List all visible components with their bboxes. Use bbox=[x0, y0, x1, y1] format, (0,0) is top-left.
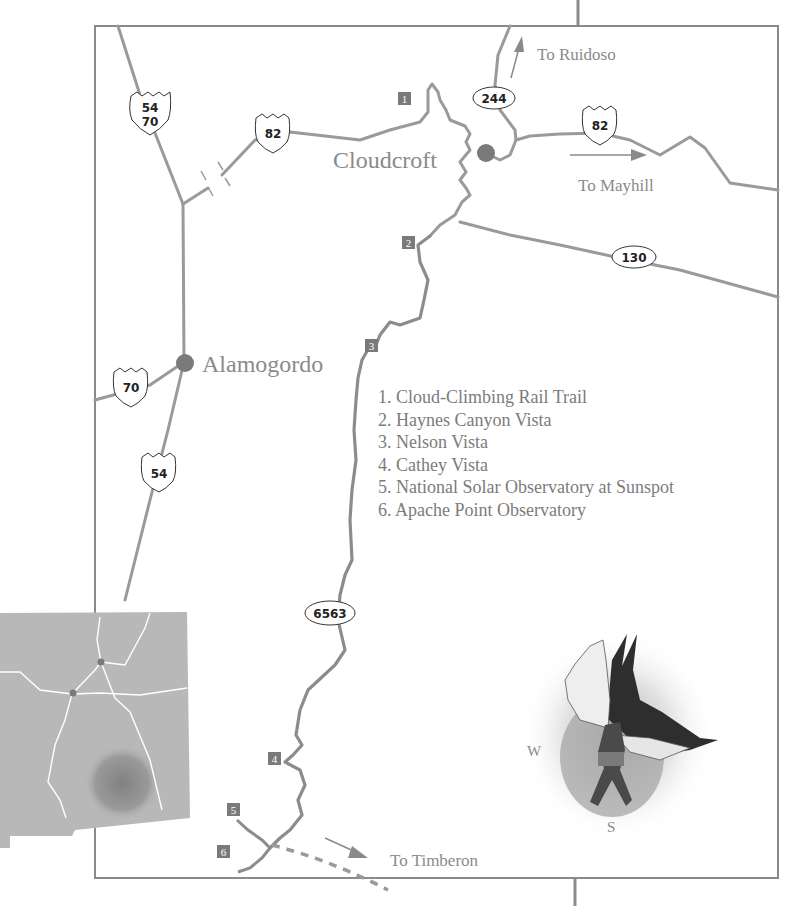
legend-item-4: 4. Cathey Vista bbox=[378, 454, 674, 477]
svg-text:244: 244 bbox=[481, 92, 506, 106]
svg-text:5: 5 bbox=[231, 804, 237, 816]
inset-city-dot-b bbox=[70, 690, 77, 697]
svg-text:82: 82 bbox=[265, 127, 282, 141]
svg-text:130: 130 bbox=[621, 251, 646, 265]
inset-map-new-mexico bbox=[0, 612, 190, 848]
marker-3[interactable]: 3 bbox=[365, 339, 378, 352]
marker-2[interactable]: 2 bbox=[402, 236, 415, 249]
svg-text:54: 54 bbox=[151, 467, 168, 481]
legend-item-1: 1. Cloud-Climbing Rail Trail bbox=[378, 386, 674, 409]
legend-item-3: 3. Nelson Vista bbox=[378, 431, 674, 454]
svg-text:4: 4 bbox=[272, 753, 278, 765]
legend-item-2: 2. Haynes Canyon Vista bbox=[378, 409, 674, 432]
points-of-interest-legend: 1. Cloud-Climbing Rail Trail 2. Haynes C… bbox=[378, 386, 674, 521]
svg-text:70: 70 bbox=[123, 381, 140, 395]
inset-city-dot-a bbox=[98, 659, 105, 666]
compass-west-label: W bbox=[527, 743, 542, 759]
city-dot-cloudcroft bbox=[477, 144, 495, 162]
city-dot-alamogordo bbox=[176, 354, 194, 372]
oval-nm-130: 130 bbox=[612, 246, 656, 268]
legend-item-6: 6. Apache Point Observatory bbox=[378, 499, 674, 522]
svg-text:82: 82 bbox=[592, 119, 609, 133]
direction-label-ruidoso: To Ruidoso bbox=[537, 45, 616, 64]
marker-4[interactable]: 4 bbox=[268, 752, 281, 765]
svg-text:1: 1 bbox=[402, 93, 408, 105]
svg-text:70: 70 bbox=[142, 115, 159, 129]
svg-text:2: 2 bbox=[406, 237, 412, 249]
oval-nm-6563: 6563 bbox=[305, 601, 355, 625]
marker-6[interactable]: 6 bbox=[217, 845, 230, 858]
svg-text:6563: 6563 bbox=[313, 607, 346, 621]
marker-1[interactable]: 1 bbox=[398, 92, 411, 105]
city-label-cloudcroft: Cloudcroft bbox=[333, 147, 437, 173]
road-us54-trunk bbox=[183, 204, 184, 362]
svg-text:54: 54 bbox=[142, 101, 159, 115]
marker-5[interactable]: 5 bbox=[227, 803, 240, 816]
svg-text:6: 6 bbox=[221, 846, 227, 858]
direction-label-mayhill: To Mayhill bbox=[578, 176, 654, 195]
city-label-alamogordo: Alamogordo bbox=[202, 351, 323, 377]
svg-text:3: 3 bbox=[369, 340, 375, 352]
oval-nm-244: 244 bbox=[473, 87, 515, 109]
direction-label-timberon: To Timberon bbox=[390, 851, 479, 870]
compass-south-label: S bbox=[607, 819, 615, 835]
legend-item-5: 5. National Solar Observatory at Sunspot bbox=[378, 476, 674, 499]
